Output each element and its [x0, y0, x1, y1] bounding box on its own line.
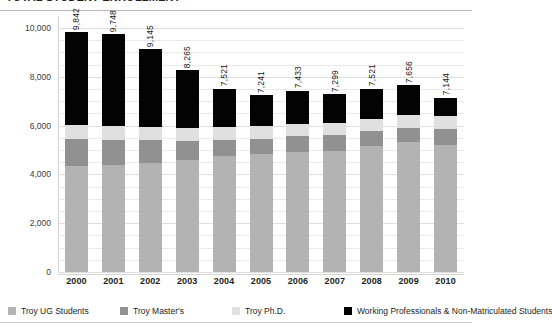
bar-segment-wp: [286, 91, 309, 124]
bar-segment-ma: [397, 128, 420, 143]
bar-segment-ug: [286, 152, 309, 272]
bar-2003[interactable]: [176, 70, 199, 272]
bar-total-label-wrap: 9,842: [65, 0, 88, 30]
bar-total-label: 9,842: [71, 8, 81, 30]
bar-segment-ug: [360, 146, 383, 272]
bar-2002[interactable]: [139, 49, 162, 272]
bar-segment-ug: [102, 165, 125, 272]
bar-segment-phd: [65, 125, 88, 139]
y-axis-tick-label: 6,000: [30, 121, 51, 131]
bar-segment-ma: [323, 135, 346, 151]
bar-segment-ma: [139, 140, 162, 163]
bar-total-label: 9,145: [145, 25, 155, 47]
bar-2001[interactable]: [102, 34, 125, 272]
bar-segment-ug: [176, 160, 199, 272]
bar-segment-wp: [65, 32, 88, 125]
bar-segment-wp: [213, 89, 236, 128]
legend-item-wp[interactable]: Working Professionals & Non-Matriculated…: [344, 304, 552, 318]
legend-swatch-icon-phd: [232, 307, 240, 315]
bar-total-label: 7,144: [441, 73, 451, 95]
bar-total-label-wrap: 7,241: [250, 59, 273, 93]
bar-total-label-wrap: 9,748: [102, 0, 125, 32]
legend-item-ma[interactable]: Troy Master's: [120, 304, 184, 318]
chart-title: TOTAL STUDENT ENROLLMENT: [6, 0, 306, 3]
bar-total-label-wrap: 7,144: [434, 62, 457, 96]
bar-segment-wp: [250, 95, 273, 126]
bar-segment-wp: [176, 70, 199, 128]
plot-area: 02,0004,0006,0008,00010,0009,8429,7489,1…: [58, 28, 464, 272]
legend-label: Working Professionals & Non-Matriculated…: [357, 306, 552, 316]
bar-total-label: 7,241: [256, 71, 266, 93]
y-axis-tick-label: 2,000: [30, 218, 51, 228]
bar-total-label-wrap: 7,521: [360, 53, 383, 87]
bar-total-label: 7,433: [293, 66, 303, 88]
bar-segment-ug: [250, 154, 273, 272]
bar-total-label-wrap: 7,656: [397, 49, 420, 83]
x-axis-baseline-shadow: [58, 274, 464, 275]
bar-segment-wp: [323, 94, 346, 123]
bar-segment-wp: [102, 34, 125, 126]
bar-segment-ma: [434, 129, 457, 145]
bar-2010[interactable]: [434, 98, 457, 272]
bar-2000[interactable]: [65, 32, 88, 272]
legend-label: Troy UG Students: [21, 306, 89, 316]
y-axis-tick-label: 10,000: [25, 23, 51, 33]
y-axis-tick-label: 4,000: [30, 169, 51, 179]
bar-2006[interactable]: [286, 91, 309, 272]
bar-segment-ug: [434, 145, 457, 272]
bar-segment-phd: [213, 127, 236, 139]
x-axis-label-2010: 2010: [423, 276, 469, 286]
bar-2008[interactable]: [360, 89, 383, 273]
bar-segment-ug: [65, 166, 88, 272]
legend-item-ug[interactable]: Troy UG Students: [8, 304, 89, 318]
legend-swatch-icon-ug: [8, 307, 16, 315]
bar-2004[interactable]: [213, 89, 236, 273]
bar-2005[interactable]: [250, 95, 273, 272]
bar-segment-wp: [397, 85, 420, 115]
bar-total-label-wrap: 7,299: [323, 58, 346, 92]
bar-segment-phd: [102, 126, 125, 140]
legend-swatch-icon-wp: [344, 307, 352, 315]
bar-2007[interactable]: [323, 94, 346, 272]
bar-segment-ug: [139, 163, 162, 272]
bar-total-label: 7,299: [330, 70, 340, 92]
bar-segment-ug: [213, 156, 236, 272]
bar-segment-phd: [176, 128, 199, 141]
bar-segment-phd: [397, 115, 420, 128]
legend-label: Troy Ph.D.: [245, 306, 285, 316]
bar-total-label-wrap: 7,433: [286, 55, 309, 89]
bar-segment-ma: [102, 140, 125, 165]
bar-segment-wp: [434, 98, 457, 117]
bar-segment-ma: [250, 139, 273, 155]
bar-total-label: 7,656: [404, 61, 414, 83]
bar-total-label-wrap: 9,145: [139, 13, 162, 47]
bar-segment-wp: [139, 49, 162, 127]
bar-segment-phd: [434, 116, 457, 129]
bar-segment-wp: [360, 89, 383, 120]
chart-legend: Troy UG StudentsTroy Master'sTroy Ph.D.W…: [8, 304, 468, 318]
bar-total-label: 8,265: [182, 46, 192, 68]
legend-item-phd[interactable]: Troy Ph.D.: [232, 304, 285, 318]
bar-total-label-wrap: 8,265: [176, 34, 199, 68]
bar-segment-phd: [360, 119, 383, 131]
bar-total-label: 7,521: [367, 64, 377, 86]
legend-swatch-icon-ma: [120, 307, 128, 315]
bar-segment-phd: [323, 123, 346, 135]
bar-segment-ma: [286, 136, 309, 152]
bar-segment-phd: [250, 126, 273, 138]
bar-segment-ma: [65, 139, 88, 166]
legend-divider: [0, 322, 472, 323]
y-axis-tick-label: 8,000: [30, 72, 51, 82]
bar-segment-ma: [360, 131, 383, 146]
bar-segment-phd: [139, 127, 162, 140]
bar-segment-phd: [286, 124, 309, 136]
legend-label: Troy Master's: [133, 306, 184, 316]
bar-total-label-wrap: 7,521: [213, 53, 236, 87]
bar-segment-ma: [176, 141, 199, 160]
bar-total-label: 7,521: [219, 64, 229, 86]
bar-segment-ug: [397, 142, 420, 272]
gridline-major: [58, 272, 464, 273]
bar-2009[interactable]: [397, 85, 420, 272]
bar-total-label: 9,748: [108, 10, 118, 32]
